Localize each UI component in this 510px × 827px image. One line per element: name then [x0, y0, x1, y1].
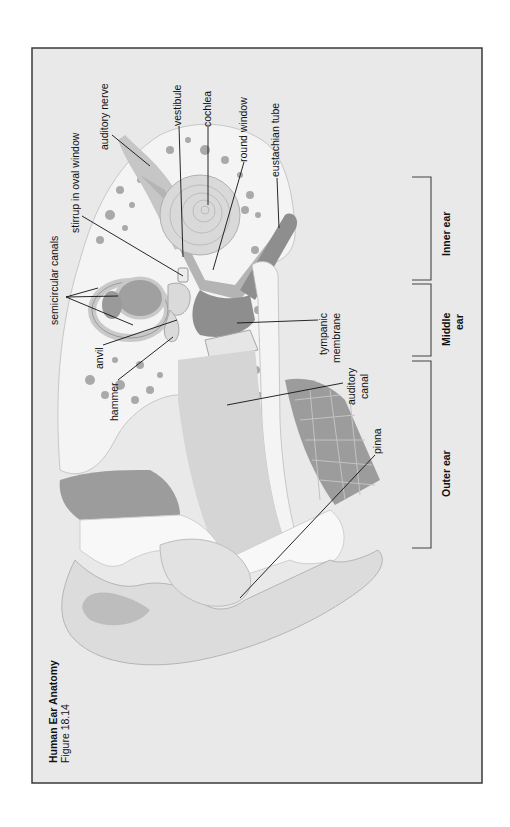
figure-number: Figure 18.14: [59, 704, 71, 763]
label-vestibule: vestibule: [171, 84, 183, 126]
label-semicircular-canals: semicircular canals: [48, 236, 60, 325]
label-hammer: hammer: [108, 382, 120, 421]
region-label-inner-ear: Inner ear: [440, 212, 452, 256]
figure-title: Human Ear Anatomy: [47, 660, 59, 763]
label-cochlea: cochlea: [201, 91, 213, 127]
label-tympanic-membrane-line1: tympanic: [317, 313, 329, 355]
label-auditory-canal-line2: canal: [358, 374, 370, 399]
region-label-middle-ear-line2: ear: [453, 314, 465, 330]
ear-anatomy-figure: semicircular canals stirrup in oval wind…: [0, 0, 510, 827]
label-anvil: anvil: [93, 347, 105, 369]
region-label-middle-ear-line1: Middle: [440, 313, 452, 346]
label-round-window: round window: [237, 97, 249, 162]
label-tympanic-membrane-line2: membrane: [330, 313, 342, 363]
label-stirrup: stirrup in oval window: [69, 132, 81, 233]
label-pinna: pinna: [371, 428, 383, 454]
region-label-outer-ear: Outer ear: [440, 450, 452, 497]
label-eustachian-tube: eustachian tube: [269, 103, 281, 177]
cochlea-structure: [160, 175, 240, 255]
label-auditory-nerve: auditory nerve: [98, 83, 110, 150]
label-auditory-canal-line1: auditory: [345, 367, 357, 405]
